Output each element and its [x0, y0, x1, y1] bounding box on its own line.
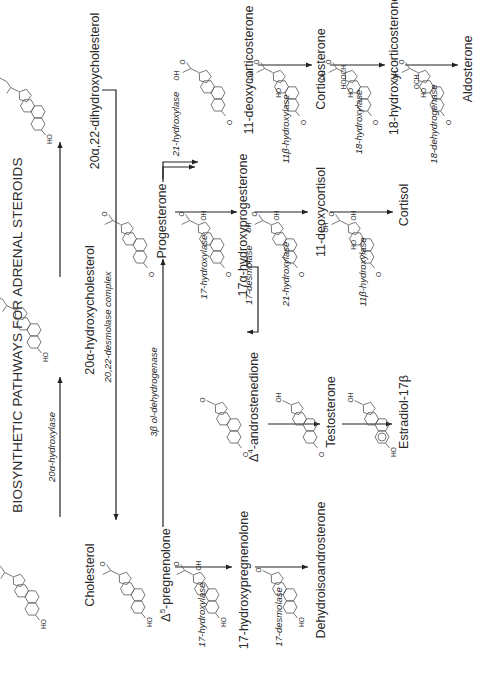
bond-methyl: [105, 221, 113, 225]
atom-oxo: O: [199, 397, 206, 402]
atom-oxo: O: [318, 452, 325, 457]
atom-oxo: O: [173, 561, 180, 566]
compound-dehydroisoandrosterone: Dehydroisoandrosterone: [314, 502, 328, 639]
arrow-head: [386, 421, 392, 426]
enzyme-20-22-desmolase-complex: 20,22-desmolase complex: [102, 270, 113, 383]
compound-name-rest: -pregnenolone: [159, 528, 173, 609]
enzyme-3b-ol-dehydrogenase: 3β ol-dehydrogenase: [148, 347, 159, 436]
bond-c17: [265, 69, 273, 73]
bond-c17: [283, 401, 291, 405]
compound-17-hydroxypregnenolone: 17-hydroxypregnenolone: [237, 511, 251, 649]
ring-c: [15, 585, 29, 597]
bond-c17: [113, 221, 121, 225]
atom-hydroxyl: HO: [46, 134, 53, 144]
bond-methyl: [402, 69, 410, 73]
atom-oxo: O: [178, 211, 185, 216]
compound-11-deoxycorticosterone: 11-deoxycorticosterone: [242, 5, 256, 134]
atom-oxo: O: [251, 211, 258, 216]
compound-20a-hydroxycholesterol: 20α-hydroxycholesterol: [83, 245, 97, 375]
structure-testosterone: OOH: [275, 392, 325, 457]
bond-methyl: [257, 69, 265, 73]
atom-11-hydroxyl: HO: [350, 240, 357, 250]
arrow-head: [302, 564, 308, 569]
bond-methyl: [183, 69, 191, 73]
enzyme-21-hydroxylase-a: 21-hydroxylase: [170, 92, 181, 157]
ring-c: [217, 413, 231, 425]
bond-c17: [263, 221, 271, 225]
structure-progesterone: OO: [101, 211, 155, 277]
compound-cholesterol: Cholesterol: [83, 543, 97, 606]
compound-testosterone: Testosterone: [324, 376, 338, 448]
arrow-head: [57, 142, 62, 148]
bond-methyl: [177, 571, 185, 575]
structure-estradiol: HOOH: [347, 392, 397, 457]
bond-c3: [238, 443, 242, 448]
ring-a: [210, 251, 224, 263]
bond-methyl: [182, 221, 190, 225]
bond-c17: [190, 221, 198, 225]
compound-name-rest: -androstenedione: [247, 352, 261, 449]
atom-hydroxyl: OH: [347, 392, 354, 402]
enzyme-21-hydroxylase-b: 21-hydroxylase: [280, 242, 291, 307]
atom-oxo: O: [298, 272, 305, 277]
ring-c: [21, 100, 35, 112]
structures-layer: HOHOHOHOOHOOOHHOOOOOOOHOOOHOHOOOHOHHOOOO…: [0, 59, 451, 629]
arrow-21-hydroxylase-hydroxyprogesterone: [255, 209, 308, 214]
enzyme-18-hydroxylase: 18-hydroxylase: [353, 90, 364, 154]
atom-hydroxyl: HO: [146, 617, 153, 627]
structure-11-deoxycorticosterone: OOOH: [173, 59, 233, 125]
atom-17-hydroxyl: OH: [200, 210, 207, 220]
bond-methyl: [103, 571, 111, 575]
bond-c3: [294, 263, 298, 268]
compound-progesterone: Progesterone: [155, 183, 169, 258]
arrow-head: [452, 62, 458, 67]
bond-side-chain: [0, 62, 11, 88]
ring-a: [133, 251, 147, 263]
compound-estradiol: Estradiol-17β: [397, 375, 411, 449]
bond-carbonyl: [109, 215, 113, 221]
bond-c3: [441, 111, 445, 116]
structure-cortisol: OOOHOHHO: [322, 210, 382, 277]
atom-oxo: O: [101, 211, 108, 216]
enzyme-11b-hydroxylase-a: 11β-hydroxylase: [357, 237, 368, 306]
bond-c17: [11, 88, 19, 92]
arrow-head: [302, 209, 308, 214]
enzyme-17-hydroxylase-a: 17-hydroxylase: [196, 583, 207, 647]
ring-a: [25, 603, 39, 615]
ring-a: [283, 601, 297, 613]
bond-c17: [191, 69, 199, 73]
enzyme-11b-hydroxylase-b: 11β-hydroxylase: [280, 94, 291, 163]
atom-oxo: O: [445, 120, 452, 125]
bond-c3: [371, 263, 375, 268]
bond-c3: [314, 443, 318, 448]
ring-c: [121, 583, 135, 595]
atom-hydroxyl: OH: [173, 70, 180, 80]
ring-a: [31, 118, 45, 130]
bond-c3: [144, 263, 148, 268]
ring-a: [205, 601, 219, 613]
arrow-17-desmolase-hydroxypregnenolone: [255, 564, 308, 569]
arrow-18-dehydrogenase: [405, 62, 458, 67]
structure-androstenedione: OO: [199, 397, 249, 457]
atom-17-hydroxyl: OH: [195, 560, 202, 570]
bond-methyl: [3, 306, 7, 312]
bond-carbonyl: [259, 215, 263, 221]
arrow-head: [314, 421, 320, 426]
arrow-line: [163, 162, 198, 179]
atom-hydroxyl: HO: [390, 447, 397, 457]
arrow-11b-hydroxylase-deoxycorticosterone: [258, 62, 312, 67]
atom-oxo: O: [148, 272, 155, 277]
enzyme-18-dehydrogenase: 18-dehydrogenase: [428, 84, 439, 163]
bond-methyl: [332, 221, 340, 225]
bond-carbonyl: [186, 215, 190, 221]
bond-c17: [5, 573, 13, 577]
atom-oxo: O: [225, 272, 232, 277]
atom-oxo: O: [375, 272, 382, 277]
atom-oxo: O: [255, 567, 262, 572]
arrow-head: [387, 209, 393, 214]
structure-pregnenolone: HOO: [99, 561, 153, 627]
atom-hydroxyl: HO: [220, 617, 227, 627]
ring-c: [365, 413, 379, 425]
bond-c17: [340, 221, 348, 225]
atom-hydroxyl: HO: [40, 619, 47, 629]
